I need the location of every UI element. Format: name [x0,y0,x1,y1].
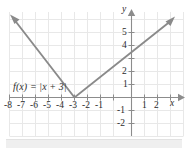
x-tick-label-neg1: -1 [95,101,103,111]
y-tick-label-neg1: -1 [117,106,125,116]
x-axis-label: x [170,99,174,109]
x-tick-label-2: 2 [154,101,159,111]
x-tick-label-neg5: -5 [43,101,51,111]
x-tick-label-neg2: -2 [82,101,90,111]
graph-canvas [0,0,188,149]
x-tick-label-neg7: -7 [17,101,25,111]
function-label: f(x) = |x + 3| [13,82,67,92]
x-tick-label-neg4: -4 [56,101,64,111]
x-tick-label-1: 1 [142,101,147,111]
y-tick-label-neg2: -2 [117,119,125,129]
x-tick-label-neg3: -3 [69,101,77,111]
x-tick-label-neg6: -6 [30,101,38,111]
y-tick-label-1: 1 [123,80,128,90]
x-tick-label-neg8: -8 [4,101,12,111]
y-tick-label-2: 2 [122,67,127,77]
y-tick-label-5: 5 [122,28,127,38]
figure-bottom-band [6,139,182,148]
y-tick-label-4: 4 [122,41,127,51]
y-axis-label: y [122,5,126,15]
up-arrow-icon [128,9,135,16]
math-graph-figure: -8 -7 -6 -5 -4 -3 -2 -1 1 2 5 4 2 1 -1 -… [0,0,188,149]
y-axis [128,9,135,136]
